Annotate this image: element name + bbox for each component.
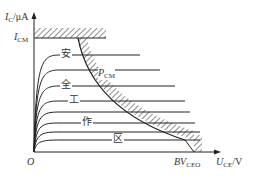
pcm-hatch [78,38,194,140]
pcm-label: PCM [98,68,115,80]
y-axis-label: IC/μA [5,12,28,24]
bv-symbol: BV [174,156,186,167]
pcm-sub: CM [104,72,115,80]
y-axis-arrow [32,12,37,19]
x-axis-arrow [214,150,221,155]
region-char-1: 安 [60,49,72,59]
bv-sub: CEO [186,161,200,169]
diagram-canvas [0,0,258,179]
x-unit: /V [232,156,242,167]
bv-hatch [194,135,202,152]
icm-label: ICM [14,32,28,44]
region-char-2: 全 [60,80,72,90]
region-char-4: 作 [81,117,93,127]
region-char-3: 工 [68,95,80,105]
icm-hatch [34,28,106,38]
icm-sub: CM [17,36,28,44]
bvceo-label: BVCEO [174,157,200,169]
x-axis-label: UCE/V [216,157,242,169]
bv-line [185,140,194,152]
region-char-5: 区 [112,134,124,144]
x-sub: CE [223,161,232,169]
y-unit: /μA [13,11,28,22]
origin-label: O [27,157,34,167]
